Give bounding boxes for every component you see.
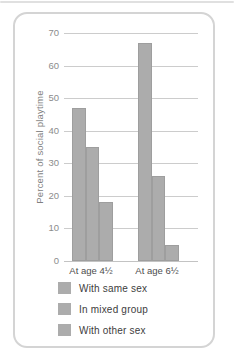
y-tick-label-20: 20 bbox=[15, 190, 59, 202]
y-tick-label-10: 10 bbox=[15, 222, 59, 234]
y-tick-label-40: 40 bbox=[15, 125, 59, 137]
figure-card: Percent of social playtime 7060504030201… bbox=[13, 12, 215, 348]
legend-label-same-sex: With same sex bbox=[79, 283, 147, 294]
gridline-60 bbox=[64, 66, 198, 67]
bar-with-same-sex-at-age-6 bbox=[138, 43, 152, 261]
legend-item-same-sex: With same sex bbox=[58, 282, 148, 294]
y-tick-label-30: 30 bbox=[15, 157, 59, 169]
y-tick-label-70: 70 bbox=[15, 27, 59, 39]
x-tick-label-age-6-half: At age 6½ bbox=[112, 265, 202, 276]
bar-with-other-sex-at-age-6 bbox=[165, 245, 179, 261]
gridline-50 bbox=[64, 98, 198, 99]
legend-swatch-same-sex bbox=[58, 282, 71, 294]
figure-page: Percent of social playtime 7060504030201… bbox=[0, 0, 234, 362]
gridline-70 bbox=[64, 33, 198, 34]
page-top-divider bbox=[0, 1, 234, 3]
y-tick-label-50: 50 bbox=[15, 92, 59, 104]
legend-label-mixed-group: In mixed group bbox=[79, 304, 148, 315]
bar-in-mixed-group-at-age-6 bbox=[152, 176, 166, 261]
bar-with-same-sex-at-age-4 bbox=[72, 108, 86, 261]
legend-swatch-other-sex bbox=[58, 324, 71, 336]
legend-item-other-sex: With other sex bbox=[58, 324, 148, 336]
bar-with-other-sex-at-age-4 bbox=[99, 202, 113, 261]
legend-swatch-mixed-group bbox=[58, 303, 71, 315]
y-tick-label-60: 60 bbox=[15, 60, 59, 72]
legend-item-mixed-group: In mixed group bbox=[58, 303, 148, 315]
bar-in-mixed-group-at-age-4 bbox=[86, 147, 100, 261]
legend: With same sex In mixed group With other … bbox=[58, 282, 148, 345]
legend-label-other-sex: With other sex bbox=[79, 325, 146, 336]
x-axis-line bbox=[64, 261, 198, 262]
